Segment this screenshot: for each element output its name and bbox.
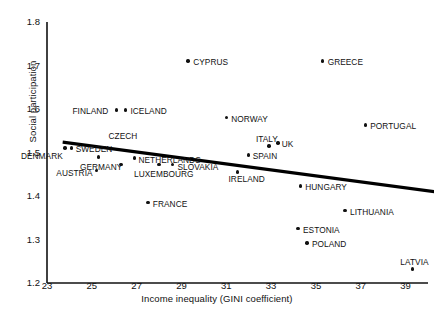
y-tick-label: 1.3 — [14, 234, 40, 245]
y-tick-label: 1.8 — [14, 16, 40, 27]
scatter-chart: Social participation Income inequality (… — [0, 0, 434, 316]
x-tick-label: 29 — [169, 280, 193, 291]
x-tick-label: 25 — [80, 280, 104, 291]
y-tick-label: 1.4 — [14, 190, 40, 201]
data-point-label: SWEDEN — [76, 144, 113, 154]
data-point-label: AUSTRIA — [56, 168, 92, 178]
data-point — [276, 141, 279, 144]
data-point-label: SPAIN — [253, 151, 278, 161]
data-point — [296, 227, 299, 230]
data-point-label: CYPRUS — [193, 57, 228, 67]
x-tick-label: 35 — [304, 280, 328, 291]
y-tick-label: 1.7 — [14, 60, 40, 71]
x-tick-label: 37 — [349, 280, 373, 291]
chart-canvas — [0, 0, 434, 316]
data-point-label: NORWAY — [231, 114, 268, 124]
data-point-label: PORTUGAL — [370, 121, 416, 131]
y-tick-label: 1.6 — [14, 103, 40, 114]
data-point-label: CZECH — [109, 131, 138, 141]
data-point — [133, 156, 136, 159]
data-point-label: LUXEMBOURG — [134, 169, 194, 179]
x-tick-label: 23 — [35, 280, 59, 291]
data-point — [411, 267, 414, 270]
data-point — [267, 144, 270, 147]
data-point-label: DENMARK — [21, 151, 63, 161]
data-point-label: FRANCE — [153, 199, 187, 209]
data-point-label: HUNGARY — [305, 182, 347, 192]
data-point — [146, 201, 149, 204]
x-tick-label: 39 — [394, 280, 418, 291]
data-point — [63, 146, 66, 149]
data-point-label: IRELAND — [229, 174, 265, 184]
x-tick-label: 27 — [125, 280, 149, 291]
x-tick-label: 33 — [259, 280, 283, 291]
data-point-label: GREECE — [328, 57, 363, 67]
data-point-label: POLAND — [312, 239, 346, 249]
data-point-label: ITALY — [256, 134, 278, 144]
data-point — [115, 108, 118, 111]
data-point — [97, 155, 100, 158]
data-point-label: FINLAND — [72, 106, 108, 116]
data-point — [124, 108, 127, 111]
data-point — [299, 184, 302, 187]
data-point-label: LATVIA — [400, 257, 428, 267]
data-point-label: ESTONIA — [303, 225, 340, 235]
data-point — [364, 123, 367, 126]
data-point-label: LITHUANIA — [350, 207, 394, 217]
data-point-label: UK — [282, 139, 294, 149]
data-point-label: ICELAND — [130, 106, 166, 116]
x-tick-label: 31 — [214, 280, 238, 291]
data-point — [186, 59, 189, 62]
data-point — [305, 241, 308, 244]
x-axis-label: Income inequality (GINI coefficient) — [0, 293, 434, 304]
